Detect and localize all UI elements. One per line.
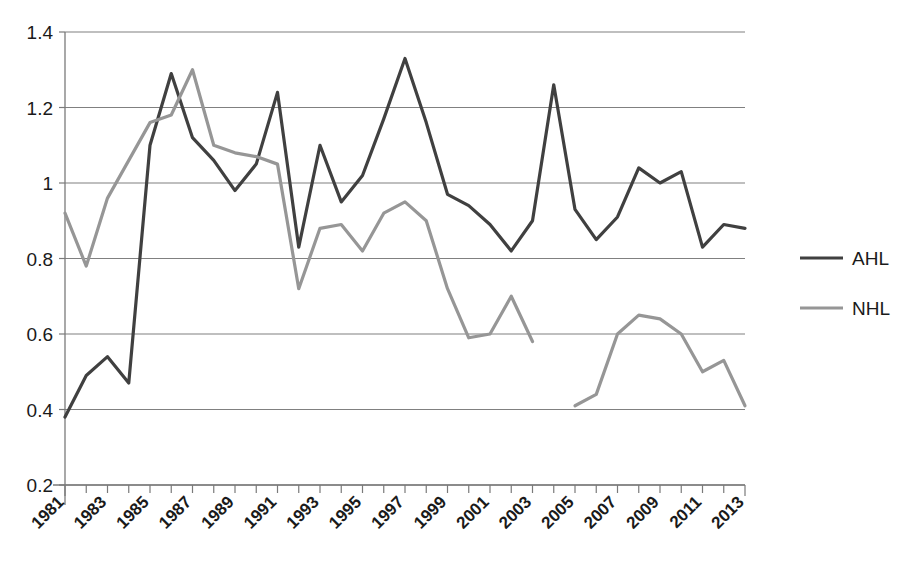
x-tick-label: 1993: [283, 492, 323, 532]
y-tick-label: 0.8: [27, 249, 53, 270]
x-tick-label: 1981: [28, 492, 68, 532]
y-tick-label: 1.2: [27, 98, 53, 119]
series-line-nhl: [575, 315, 745, 406]
legend-label-ahl: AHL: [852, 248, 889, 269]
y-tick-label: 0.6: [27, 324, 53, 345]
y-tick-label: 0.4: [27, 400, 54, 421]
x-tick-label: 1985: [113, 492, 153, 532]
x-tick-label: 1991: [240, 492, 280, 532]
y-tick-label: 1.4: [27, 22, 54, 43]
line-chart: 0.20.40.60.811.21.4 19811983198519871989…: [0, 0, 901, 571]
x-tick-label: 2013: [708, 492, 748, 532]
x-tick-label: 2001: [453, 492, 493, 532]
x-tick-label: 1999: [410, 492, 450, 532]
chart-container: 0.20.40.60.811.21.4 19811983198519871989…: [0, 0, 901, 571]
x-tick-label: 1995: [325, 492, 365, 532]
x-tick-label: 1987: [155, 492, 195, 532]
y-tick-label: 0.2: [27, 475, 53, 496]
x-tick-label: 2011: [666, 492, 706, 532]
y-tick-labels: 0.20.40.60.811.21.4: [27, 22, 54, 496]
x-tick-label: 2007: [580, 492, 620, 532]
series-line-ahl: [65, 58, 745, 417]
x-tick-label: 1989: [198, 492, 238, 532]
data-series-group: [65, 58, 745, 417]
chart-legend: AHLNHL: [800, 248, 890, 319]
x-tick-label: 2003: [495, 492, 535, 532]
x-tick-label: 1997: [368, 492, 408, 532]
gridlines-group: [65, 32, 745, 485]
y-axis: [59, 32, 65, 505]
y-tick-label: 1: [42, 173, 53, 194]
x-tick-labels: 1981198319851987198919911993199519971999…: [28, 492, 748, 532]
x-tick-label: 2005: [538, 492, 578, 532]
x-tick-label: 1983: [70, 492, 110, 532]
legend-label-nhl: NHL: [852, 298, 890, 319]
x-tick-marks: [65, 485, 745, 496]
x-tick-label: 2009: [623, 492, 663, 532]
